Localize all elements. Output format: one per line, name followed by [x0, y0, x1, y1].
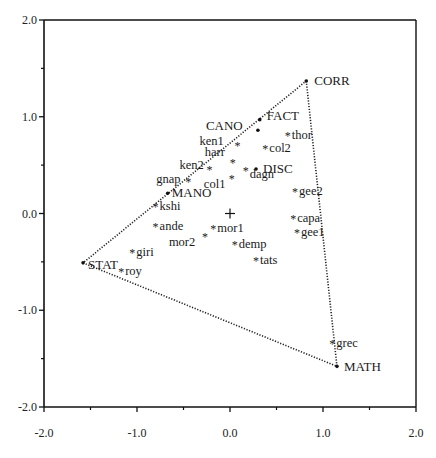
asterisk-marker: * [230, 156, 236, 170]
origin-marker [225, 209, 235, 219]
biplot-chart: 2.01.00.0-1.0-2.0 -2.0-1.00.01.02.0 CORR… [0, 0, 436, 458]
asterisk-marker: * [129, 246, 135, 260]
point-label: grec [336, 336, 358, 350]
point-label: capa [297, 211, 320, 225]
dot-marker [258, 118, 262, 122]
asterisk-marker: * [210, 222, 216, 236]
asterisk-marker: * [153, 200, 159, 214]
method-point-math: MATH [335, 359, 381, 374]
method-point-fact: FACT [258, 108, 299, 123]
asterisk-marker: * [185, 175, 191, 189]
asterisk-marker: * [234, 139, 240, 153]
point-label: ken2 [180, 158, 204, 172]
point-label: mor2 [169, 235, 195, 249]
point-label: gee1 [301, 225, 325, 239]
point-label: mor1 [217, 221, 243, 235]
point-label: ande [160, 219, 184, 233]
author-point-giri: *giri [129, 245, 154, 260]
point-label: CANO [206, 118, 243, 133]
x-axis: -2.0-1.00.01.02.0 [35, 407, 424, 440]
author-point-tats: *tats [253, 253, 277, 268]
point-label: FACT [267, 108, 299, 123]
asterisk-marker: * [294, 226, 300, 240]
point-label: CORR [314, 73, 350, 88]
author-point-ande: *ande [153, 219, 184, 234]
asterisk-marker: * [329, 337, 335, 351]
author-point-kshi: *kshi [153, 199, 181, 214]
y-tick-label: -1.0 [18, 303, 37, 317]
asterisk-marker: * [290, 212, 296, 226]
asterisk-marker: * [118, 265, 124, 279]
point-label: kshi [160, 199, 181, 213]
author-point-mor1: *mor1 [210, 221, 243, 236]
asterisk-marker: * [292, 185, 298, 199]
point-label: roy [125, 264, 142, 278]
point-label: col1 [204, 177, 226, 191]
point-label: dagn [250, 167, 275, 181]
point-label: demp [239, 237, 267, 251]
point-label: gee2 [299, 184, 323, 198]
x-tick-label: -2.0 [35, 426, 54, 440]
author-point-gee1: *gee1 [294, 225, 325, 240]
y-tick-label: 2.0 [22, 13, 37, 27]
dot-marker [304, 79, 308, 83]
asterisk-marker: * [207, 163, 213, 177]
author-point-gee2: *gee2 [292, 184, 323, 199]
dot-marker [81, 261, 85, 265]
asterisk-marker: * [243, 164, 249, 178]
author-point-demp: *demp [232, 237, 267, 252]
dot-marker [335, 365, 339, 369]
dot-marker [166, 191, 170, 195]
point-label: STAT [88, 257, 118, 272]
asterisk-marker: * [262, 142, 268, 156]
point-label: MATH [344, 359, 381, 374]
point-label: giri [136, 245, 154, 259]
method-point-corr: CORR [304, 73, 350, 88]
y-tick-label: 0.0 [22, 207, 37, 221]
point-label: thor [292, 128, 313, 142]
asterisk-marker: * [153, 220, 159, 234]
author-point-dagn: *dagn [243, 164, 275, 181]
x-tick-label: 1.0 [316, 426, 331, 440]
point-label: harr [205, 145, 226, 159]
point-label: gnap [156, 172, 180, 186]
y-tick-label: -2.0 [18, 400, 37, 414]
x-tick-label: -1.0 [128, 426, 147, 440]
asterisk-marker: * [229, 172, 235, 186]
dot-marker [256, 128, 260, 132]
data-points: CORRFACTCANODISCMANOSTATMATH*thor*col2*k… [81, 73, 381, 374]
point-label: tats [260, 253, 277, 267]
x-tick-label: 0.0 [223, 426, 238, 440]
asterisk-marker: * [232, 238, 238, 252]
point-label: col2 [269, 141, 291, 155]
author-point-roy: *roy [118, 264, 142, 279]
asterisk-marker: * [202, 230, 208, 244]
y-axis: 2.01.00.0-1.0-2.0 [18, 13, 44, 414]
author-point-grec: *grec [329, 336, 358, 351]
x-tick-label: 2.0 [409, 426, 424, 440]
asterisk-marker: * [253, 254, 259, 268]
author-point-col2: *col2 [262, 141, 291, 156]
y-tick-label: 1.0 [22, 110, 37, 124]
